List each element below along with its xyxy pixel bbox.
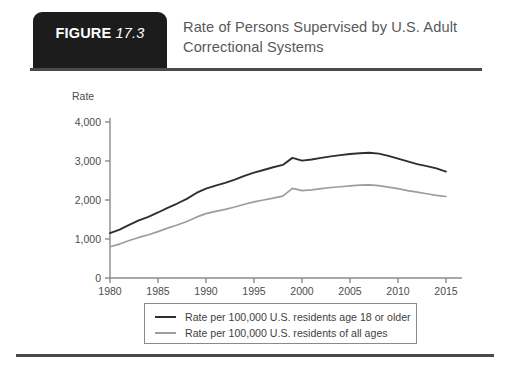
figure-badge-text: FIGURE 17.3 bbox=[55, 25, 144, 41]
figure-badge: FIGURE 17.3 bbox=[33, 12, 167, 69]
y-tick-label: 1,000 bbox=[75, 233, 101, 245]
figure-title: Rate of Persons Supervised by U.S. Adult… bbox=[183, 17, 493, 57]
legend-item-all-ages: Rate per 100,000 U.S. residents of all a… bbox=[155, 326, 416, 340]
header-rule bbox=[30, 68, 482, 71]
figure-header: FIGURE 17.3 Rate of Persons Supervised b… bbox=[0, 0, 510, 72]
figure-badge-word: FIGURE bbox=[55, 25, 111, 41]
legend-swatch-adults-icon bbox=[155, 316, 176, 318]
footer-rule bbox=[16, 354, 494, 357]
chart-legend: Rate per 100,000 U.S. residents age 18 o… bbox=[144, 303, 417, 344]
x-tick-label: 2000 bbox=[290, 285, 314, 297]
legend-swatch-all-ages-icon bbox=[155, 332, 176, 334]
series-line-adults bbox=[110, 153, 446, 233]
x-tick-label: 2005 bbox=[338, 285, 362, 297]
x-tick-label: 1990 bbox=[194, 285, 218, 297]
x-tick-label: 1985 bbox=[146, 285, 170, 297]
legend-label-adults: Rate per 100,000 U.S. residents age 18 o… bbox=[185, 311, 411, 323]
y-tick-label: 0 bbox=[95, 272, 101, 284]
x-axis: 19801985199019952000200520102015 bbox=[98, 278, 462, 297]
y-tick-label: 2,000 bbox=[75, 194, 101, 206]
y-axis: 01,0002,0003,0004,000 bbox=[75, 116, 110, 284]
y-tick-label: 3,000 bbox=[75, 155, 101, 167]
legend-label-all-ages: Rate per 100,000 U.S. residents of all a… bbox=[185, 327, 388, 339]
data-series-group bbox=[110, 153, 446, 247]
y-tick-label: 4,000 bbox=[75, 116, 101, 128]
x-tick-label: 1995 bbox=[242, 285, 266, 297]
y-axis-title: Rate bbox=[72, 90, 94, 102]
line-chart-svg: 01,0002,0003,0004,000 198019851990199520… bbox=[0, 72, 510, 302]
series-line-all-ages bbox=[110, 185, 446, 247]
x-tick-label: 1980 bbox=[98, 285, 122, 297]
chart-plot: 01,0002,0003,0004,000 198019851990199520… bbox=[0, 72, 510, 302]
legend-item-adults: Rate per 100,000 U.S. residents age 18 o… bbox=[155, 310, 416, 324]
figure-badge-number: 17.3 bbox=[116, 25, 145, 41]
x-tick-label: 2015 bbox=[434, 285, 458, 297]
x-tick-label: 2010 bbox=[386, 285, 410, 297]
